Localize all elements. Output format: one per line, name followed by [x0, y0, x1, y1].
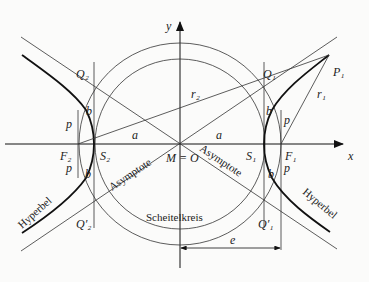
- p1-label: P₁: [332, 65, 345, 79]
- s1-label: S₁: [246, 149, 256, 163]
- scheitelkreis-label: Scheitelkreis: [146, 211, 203, 223]
- e-label: e: [230, 233, 236, 247]
- r2-label: r₂: [191, 87, 200, 101]
- a-label-right: a: [216, 128, 222, 142]
- p-label-upper-right: p: [283, 113, 290, 127]
- y-axis-label: y: [165, 19, 172, 33]
- q2-label: Q₂: [76, 67, 89, 81]
- x-axis-label: x: [347, 149, 354, 163]
- b-label-upper-left: b: [86, 104, 92, 118]
- p-label-lower-left: p: [65, 161, 72, 175]
- b-label-upper-right: b: [266, 104, 272, 118]
- asymptote-label-left: Asymptote: [106, 156, 153, 193]
- s2-label: S₂: [100, 149, 110, 163]
- r2-line: [78, 55, 329, 144]
- hyperbola-diagram: y x Q₂ Q₁ P₁ r₁ r₂ b b p p a a F₂ S₂ S₁ …: [0, 0, 369, 282]
- center-label: M = O: [165, 151, 199, 165]
- q1-label: Q₁: [263, 67, 276, 81]
- q1-prime-label: Q′₁: [258, 217, 273, 231]
- b-label-lower-left: b: [85, 167, 91, 181]
- r1-label: r₁: [317, 87, 326, 101]
- p-label-lower-right: p: [283, 161, 290, 175]
- p-label-upper-left: p: [65, 117, 72, 131]
- a-label-left: a: [132, 128, 138, 142]
- q2-prime-label: Q′₂: [76, 217, 91, 231]
- b-label-lower-right: b: [268, 167, 274, 181]
